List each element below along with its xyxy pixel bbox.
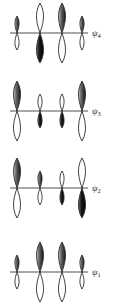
- lobe-empty-down: [36, 272, 43, 302]
- orbital-label-subscript: 1: [98, 271, 101, 278]
- lobe-shaded-up: [36, 242, 43, 272]
- lobe-empty-down: [58, 272, 65, 302]
- lobe-empty-down: [80, 272, 84, 289]
- lobe-shaded-up: [58, 242, 65, 272]
- molecular-orbital-figure: ψ4ψ3ψ2ψ1: [0, 0, 114, 305]
- orbital-label-psi1: ψ1: [92, 268, 101, 279]
- orbital-canvas-psi1: [0, 0, 114, 305]
- lobe-empty-down: [15, 272, 19, 289]
- lobe-shaded-up: [80, 255, 84, 272]
- lobe-shaded-up: [15, 255, 19, 272]
